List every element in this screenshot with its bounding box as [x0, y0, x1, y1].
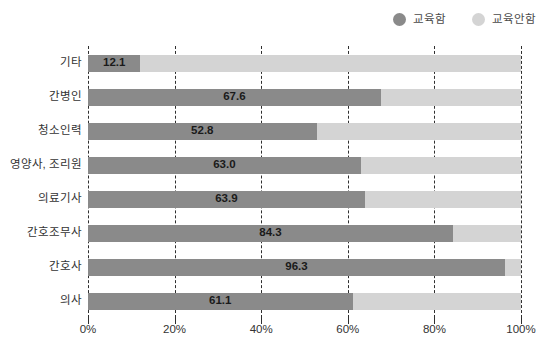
legend-item-educated: 교육함 [393, 13, 446, 26]
bar-segment-educated: 96.3 [88, 259, 505, 276]
bar-row: 63.0 [88, 157, 521, 174]
bar-segment-educated: 63.9 [88, 191, 365, 208]
gridline-100pct [521, 46, 522, 318]
bar-row: 96.3 [88, 259, 521, 276]
bar-segment-not-educated [140, 55, 521, 72]
bar-segment-educated: 61.1 [88, 293, 353, 310]
x-axis-tick-label: 60% [336, 324, 359, 336]
bar-segment-educated: 67.6 [88, 89, 381, 106]
y-axis-label: 간호조무사 [0, 225, 82, 242]
y-axis-labels: 기타간병인청소인력영양사, 조리원의료기사간호조무사간호사의사 [0, 46, 82, 318]
bar-value-label: 61.1 [209, 295, 231, 307]
chart-legend: 교육함 교육안함 [393, 13, 536, 26]
bar-row: 52.8 [88, 123, 521, 140]
bar-rows: 12.167.652.863.063.984.396.361.1 [88, 46, 521, 318]
bar-segment-not-educated [361, 157, 521, 174]
bar-segment-educated: 84.3 [88, 225, 453, 242]
x-axis-tick-label: 40% [250, 324, 273, 336]
bar-segment-educated: 52.8 [88, 123, 317, 140]
y-axis-label: 영양사, 조리원 [0, 157, 82, 174]
legend-label-educated: 교육함 [413, 14, 446, 26]
bar-value-label: 84.3 [259, 227, 281, 239]
bar-segment-not-educated [365, 191, 521, 208]
x-axis-tick-label: 100% [506, 324, 535, 336]
y-axis-label: 청소인력 [0, 123, 82, 140]
x-axis-tick-label: 80% [423, 324, 446, 336]
y-axis-label: 기타 [0, 55, 82, 72]
bar-value-label: 12.1 [103, 57, 125, 69]
bar-segment-not-educated [353, 293, 521, 310]
legend-item-not-educated: 교육안함 [472, 13, 536, 26]
bar-value-label: 96.3 [285, 261, 307, 273]
bar-segment-not-educated [453, 225, 521, 242]
bar-segment-educated: 63.0 [88, 157, 361, 174]
plot-area: 12.167.652.863.063.984.396.361.1 [88, 46, 521, 318]
legend-label-not-educated: 교육안함 [492, 14, 536, 26]
bar-row: 63.9 [88, 191, 521, 208]
y-axis-label: 간병인 [0, 89, 82, 106]
legend-swatch-not-educated-icon [472, 13, 485, 26]
x-axis-tick-label: 20% [163, 324, 186, 336]
x-axis-labels: 0%20%40%60%80%100% [88, 324, 521, 342]
y-axis-label: 간호사 [0, 259, 82, 276]
bar-segment-educated: 12.1 [88, 55, 140, 72]
bar-value-label: 63.0 [213, 159, 235, 171]
bar-row: 67.6 [88, 89, 521, 106]
legend-swatch-educated-icon [393, 13, 406, 26]
y-axis-label: 의료기사 [0, 191, 82, 208]
x-axis-tick-label: 0% [80, 324, 97, 336]
bar-row: 61.1 [88, 293, 521, 310]
y-axis-label: 의사 [0, 293, 82, 310]
bar-value-label: 67.6 [223, 91, 245, 103]
stacked-bar-chart: 교육함 교육안함 기타간병인청소인력영양사, 조리원의료기사간호조무사간호사의사… [0, 0, 552, 351]
bar-row: 84.3 [88, 225, 521, 242]
bar-row: 12.1 [88, 55, 521, 72]
bar-value-label: 63.9 [215, 193, 237, 205]
bar-value-label: 52.8 [191, 125, 213, 137]
bar-segment-not-educated [381, 89, 521, 106]
bar-segment-not-educated [505, 259, 521, 276]
bar-segment-not-educated [317, 123, 521, 140]
